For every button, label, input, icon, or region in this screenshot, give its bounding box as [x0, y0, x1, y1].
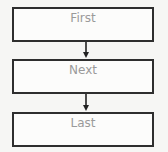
node-label: Last: [14, 116, 152, 130]
node-label: Next: [14, 63, 152, 77]
arrow-down-icon: [83, 94, 89, 112]
arrow-down-icon: [83, 42, 89, 59]
node-last: Last: [12, 112, 154, 147]
node-next: Next: [12, 59, 154, 94]
node-first: First: [12, 7, 154, 42]
node-label: First: [14, 11, 152, 25]
